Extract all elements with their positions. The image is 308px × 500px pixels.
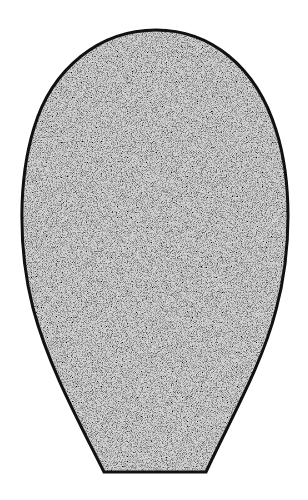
egg-shape-figure [0, 0, 308, 500]
illustration-canvas [0, 0, 308, 500]
egg-stipple-fill [0, 0, 308, 500]
